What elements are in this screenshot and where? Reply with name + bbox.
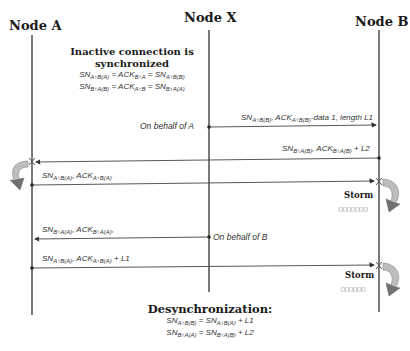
- node-x-title: Node X: [184, 10, 237, 25]
- sync-title-line2: synchronized: [62, 58, 202, 70]
- storm-curved-arrow-icon: [383, 263, 400, 296]
- retransmit-curved-arrow-icon: [10, 161, 28, 190]
- message-label-3: SNA↑B(A), ACKA↑B(A): [42, 171, 112, 181]
- desync-block: Desynchronization: SNA↑B(B) = SNA↑B(A) +…: [130, 302, 290, 340]
- message-label-5: SNA↑B(A), ACKA↑B(A) + L1: [42, 254, 130, 264]
- on-behalf-of-a-label: On behalf of A: [140, 121, 194, 131]
- storm-packets-1: □□□□□□□: [339, 205, 368, 212]
- storm-curved-arrow-icon: [383, 179, 400, 212]
- message-arrow-1: [207, 125, 376, 129]
- sync-equation-1: SNA↑B(A) = ACKB↑A = SNA↑B(B): [62, 70, 202, 82]
- message-label-4: SNB↑A(A), ACKB↑A(A),: [42, 225, 114, 235]
- on-behalf-of-b-label: On behalf of B: [213, 232, 267, 242]
- message-arrow-2: [29, 156, 381, 165]
- node-a-title: Node A: [9, 18, 62, 33]
- desync-equation-1: SNA↑B(B) = SNA↑B(A) + L1: [130, 316, 290, 328]
- node-b-title: Node B: [355, 14, 408, 29]
- sync-block: Inactive connection is synchronized SNA↑…: [62, 46, 202, 94]
- sync-equation-2: SNB↑A(B) = ACKA↑B = SNB↑A(A): [62, 82, 202, 94]
- desync-equation-2: SNB↑A(A) = SNB↑A(B) + L2: [130, 328, 290, 340]
- storm-label-2: Storm: [345, 270, 374, 280]
- sync-title-line1: Inactive connection is: [62, 46, 202, 58]
- message-label-1: SNA↑B(B), ACKA↑B(B)-data 1, length L1: [241, 113, 373, 123]
- desync-title: Desynchronization:: [130, 302, 290, 316]
- message-label-2: SNB↑A(B), ACKB↑A(B) + L2: [282, 144, 370, 154]
- message-arrow-4: [35, 235, 211, 239]
- storm-label-1: Storm: [344, 190, 373, 200]
- storm-packets-2: □□□□□□: [341, 285, 366, 292]
